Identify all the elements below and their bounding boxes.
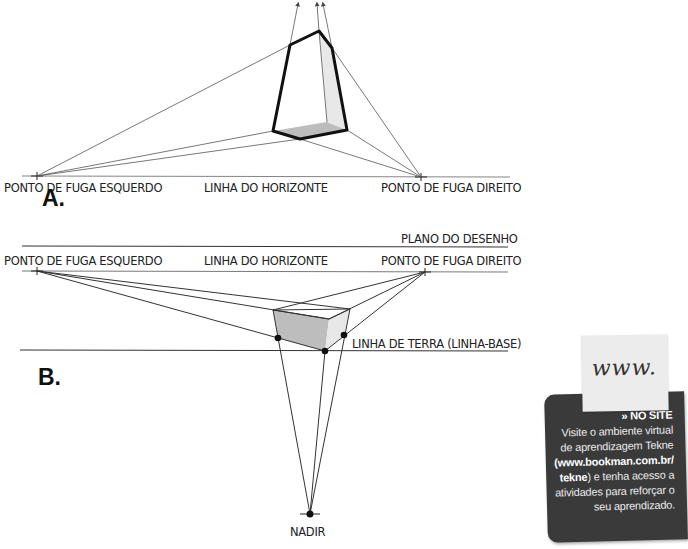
- picture-plane-line: [22, 246, 508, 247]
- nadir-label: NADIR: [290, 525, 326, 539]
- site-link-cont[interactable]: tekne: [559, 471, 587, 484]
- card-line: ) e tenha acesso a: [587, 468, 674, 482]
- picture-plane-label: PLANO DO DESENHO: [401, 232, 518, 246]
- card-text: » NO SITE Visite o ambiente virtual de a…: [543, 408, 676, 516]
- figure-b: PLANO DO DESENHO PONTO DE FUGA ESQUERDO …: [4, 232, 521, 539]
- right-vp-label-a: PONTO DE FUGA DIREITO: [381, 181, 521, 195]
- construction-lines-a: [37, 4, 421, 177]
- horizon-label-a: LINHA DO HORIZONTE: [204, 181, 328, 195]
- online-resources-card: » NO SITE Visite o ambiente virtual de a…: [544, 391, 688, 543]
- figure-a: PONTO DE FUGA ESQUERDO LINHA DO HORIZONT…: [4, 4, 521, 211]
- horizon-line-a: [22, 176, 510, 177]
- left-vp-label-a: PONTO DE FUGA ESQUERDO: [4, 181, 162, 195]
- right-vp-label-b: PONTO DE FUGA DIREITO: [381, 254, 521, 268]
- left-vp-label-b: PONTO DE FUGA ESQUERDO: [4, 254, 162, 268]
- horizon-line-b: [22, 271, 508, 272]
- site-link[interactable]: (www.bookman.com.br/: [554, 453, 674, 468]
- figure-a-letter: A.: [42, 185, 65, 211]
- figure-b-letter: B.: [38, 364, 61, 390]
- construction-lines-b: [37, 271, 425, 514]
- ground-line-label: LINHA DE TERRA (LINHA-BASE): [352, 337, 521, 351]
- www-sticky-note-icon: www.: [581, 334, 668, 411]
- horizon-label-b: LINHA DO HORIZONTE: [204, 254, 328, 268]
- www-note-text: www.: [592, 354, 657, 380]
